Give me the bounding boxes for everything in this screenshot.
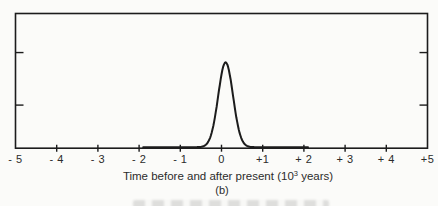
x-axis-title-suffix: years) — [298, 170, 333, 182]
x-tick-label: +1 — [256, 153, 270, 165]
x-tick-label: - 5 — [8, 153, 22, 165]
x-tick-label: + 3 — [337, 153, 354, 165]
figure-panel-b: - 5- 4- 3- 2- 10+1+ 2+ 3+ 4+5 Time befor… — [0, 0, 438, 206]
x-axis-title-prefix: Time before and after present (10 — [123, 170, 294, 182]
x-tick-label: 0 — [218, 153, 225, 165]
panel-label: (b) — [0, 184, 438, 196]
x-tick-label: - 1 — [173, 153, 187, 165]
x-axis-tick-labels: - 5- 4- 3- 2- 10+1+ 2+ 3+ 4+5 — [0, 153, 438, 167]
x-tick-label: + 2 — [295, 153, 312, 165]
x-tick-label: - 3 — [91, 153, 105, 165]
x-axis-title: Time before and after present (103 years… — [0, 170, 438, 182]
cropped-caption-fragment — [133, 200, 329, 206]
x-tick-label: - 2 — [132, 153, 146, 165]
x-tick-label: +5 — [421, 153, 435, 165]
x-tick-label: + 4 — [378, 153, 395, 165]
x-axis-title-exponent: 3 — [294, 169, 298, 178]
x-tick-label: - 4 — [50, 153, 64, 165]
